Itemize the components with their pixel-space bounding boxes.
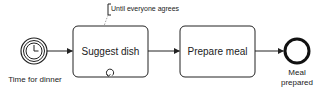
end-event-label-line2: prepared [275, 78, 319, 87]
annotation-association [104, 15, 108, 26]
task-suggest-dish-label: Suggest dish [73, 26, 148, 77]
text-annotation[interactable] [104, 4, 111, 26]
start-event-label: Time for dinner [6, 75, 64, 84]
clock-icon [26, 43, 42, 59]
end-event-label-line1: Meal [275, 68, 319, 77]
start-timer-event[interactable] [21, 38, 47, 64]
annotation-text: Until everyone agrees [111, 5, 179, 12]
task-prepare-meal-label: Prepare meal [180, 26, 255, 77]
end-event[interactable] [285, 39, 309, 63]
